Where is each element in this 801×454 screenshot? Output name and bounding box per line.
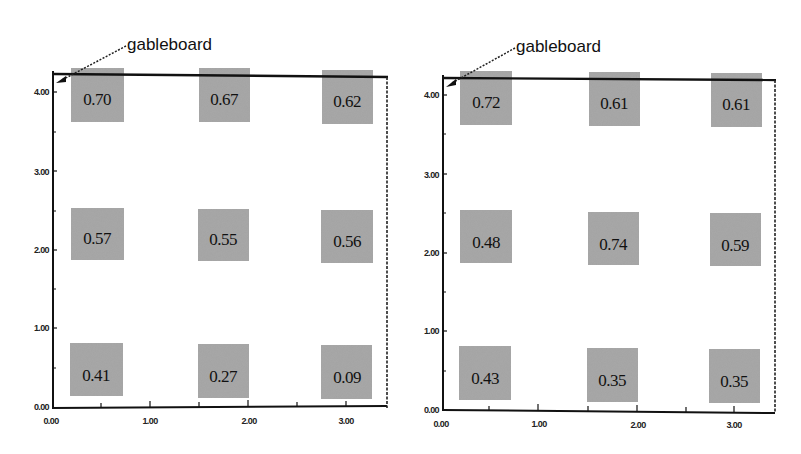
annotation-label: gableboard: [516, 37, 601, 56]
cell-value: 0.43: [471, 369, 499, 388]
cell-value: 0.56: [333, 232, 361, 251]
left-plot: 0.70 0.67 0.62 0.57 0.55 0.56: [34, 35, 388, 426]
y-tick-label: 0.00: [424, 405, 440, 415]
cell-value: 0.59: [721, 236, 749, 255]
left-y-tick-labels: 4.00 3.00 2.00 1.00 0.00: [34, 87, 50, 412]
right-cells: 0.72 0.61 0.61 0.48 0.74 0.59: [459, 71, 762, 403]
cell-box: 0.70: [71, 68, 124, 122]
y-tick-label: 4.00: [424, 90, 440, 100]
cell-value: 0.61: [600, 94, 628, 113]
cell-value: 0.67: [210, 90, 239, 109]
y-tick-label: 0.00: [34, 402, 50, 412]
y-tick-label: 3.00: [34, 167, 50, 177]
cell-box: 0.59: [710, 213, 761, 266]
cell-box: 0.43: [459, 346, 511, 400]
x-tick-label: 1.00: [531, 419, 547, 429]
x-tick-label: 3.00: [338, 416, 354, 426]
cell-value: 0.74: [599, 235, 628, 254]
x-tick-label: 2.00: [630, 420, 646, 430]
cell-value: 0.35: [598, 371, 626, 390]
cell-value: 0.61: [722, 95, 750, 114]
cell-value: 0.48: [472, 233, 500, 252]
cell-value: 0.09: [333, 368, 361, 387]
cell-box: 0.48: [460, 210, 512, 263]
cell-box: 0.35: [587, 348, 638, 402]
left-x-tick-labels: 0.00 1.00 2.00 3.00: [43, 416, 354, 426]
y-tick-label: 2.00: [424, 248, 440, 258]
x-tick-label: 2.00: [241, 416, 257, 426]
x-tick-label: 1.00: [142, 416, 158, 426]
y-tick-label: 1.00: [424, 326, 440, 336]
y-tick-label: 3.00: [424, 170, 440, 180]
cell-value: 0.72: [472, 93, 500, 112]
annotation-label: gableboard: [127, 35, 212, 54]
right-plot: 0.72 0.61 0.61 0.48 0.74 0.59: [424, 37, 776, 430]
cell-value: 0.27: [209, 367, 238, 386]
cell-value: 0.57: [83, 229, 112, 248]
y-tick-label: 1.00: [34, 323, 50, 333]
cell-value: 0.55: [209, 230, 237, 249]
right-y-tick-labels: 4.00 3.00 2.00 1.00 0.00: [424, 90, 440, 415]
left-cells: 0.70 0.67 0.62 0.57 0.55 0.56: [70, 68, 373, 399]
cell-box: 0.09: [321, 345, 372, 399]
cell-box: 0.61: [711, 73, 762, 127]
arrow-head-icon: [446, 79, 456, 87]
y-tick-label: 2.00: [34, 245, 50, 255]
cell-box: 0.27: [198, 344, 249, 398]
right-x-tick-labels: 0.00 1.00 2.00 3.00: [433, 419, 742, 430]
cell-value: 0.62: [333, 92, 361, 111]
cell-box: 0.55: [198, 209, 249, 261]
x-tick-label: 0.00: [43, 416, 59, 426]
x-tick-label: 3.00: [726, 420, 742, 430]
cell-box: 0.41: [70, 343, 123, 396]
cell-value: 0.41: [82, 366, 110, 385]
figure: 0.70 0.67 0.62 0.57 0.55 0.56: [0, 0, 801, 454]
cell-box: 0.56: [321, 210, 373, 263]
y-tick-label: 4.00: [34, 87, 50, 97]
cell-box: 0.62: [322, 70, 373, 124]
x-tick-label: 0.00: [433, 419, 449, 429]
cell-value: 0.70: [83, 90, 111, 109]
cell-box: 0.74: [588, 212, 639, 265]
cell-box: 0.35: [709, 349, 760, 403]
cell-box: 0.57: [71, 208, 124, 260]
cell-value: 0.35: [720, 372, 748, 391]
arrow-head-icon: [56, 76, 66, 83]
